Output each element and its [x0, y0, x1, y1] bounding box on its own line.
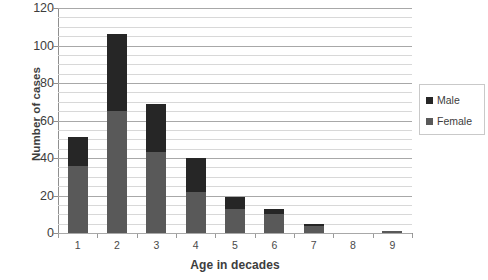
gridline-major	[58, 8, 412, 9]
bar-segment-male[interactable]	[68, 137, 88, 165]
bar-segment-male[interactable]	[146, 104, 166, 153]
bar-stack[interactable]	[186, 158, 206, 233]
bar-segment-male[interactable]	[107, 34, 127, 111]
bar-stack[interactable]	[382, 231, 402, 233]
y-axis-tick-label: 0	[8, 226, 54, 240]
bar-stack[interactable]	[146, 104, 166, 233]
legend-item-female[interactable]: Female	[426, 115, 472, 127]
x-axis-tick-mark	[215, 234, 216, 238]
y-axis-tick-label: 60	[8, 114, 54, 128]
gridline-major	[58, 233, 412, 234]
x-axis-tick-label: 8	[350, 239, 356, 251]
bar-segment-male[interactable]	[186, 158, 206, 192]
y-axis-tick-mark	[53, 46, 58, 47]
bar-segment-female[interactable]	[382, 231, 402, 233]
y-axis-tick-label: 100	[8, 39, 54, 53]
x-axis-tick-mark	[58, 234, 59, 238]
y-axis-tick-labels: 020406080100120	[4, 0, 54, 280]
chart-legend: Male Female	[419, 84, 485, 135]
bar-segment-male[interactable]	[304, 224, 324, 226]
x-axis-tick-label: 9	[389, 239, 395, 251]
y-axis-tick-label: 80	[8, 76, 54, 90]
x-axis-tick-label: 4	[193, 239, 199, 251]
legend-swatch-male	[426, 97, 433, 104]
x-axis-tick-mark	[176, 234, 177, 238]
x-axis-tick-mark	[137, 234, 138, 238]
y-axis-tick-mark	[53, 233, 58, 234]
x-axis-tick-mark	[294, 234, 295, 238]
bar-segment-female[interactable]	[107, 111, 127, 233]
bar-stack[interactable]	[68, 137, 88, 233]
bar-stack[interactable]	[225, 197, 245, 233]
bar-segment-female[interactable]	[186, 192, 206, 233]
x-axis-tick-mark	[255, 234, 256, 238]
x-axis-tick-mark	[333, 234, 334, 238]
bar-segment-female[interactable]	[68, 166, 88, 234]
x-axis-tick-label: 2	[114, 239, 120, 251]
bar-segment-female[interactable]	[225, 209, 245, 233]
x-axis-tick-label: 3	[153, 239, 159, 251]
y-axis-tick-mark	[53, 121, 58, 122]
legend-swatch-female	[426, 118, 433, 125]
x-axis-tick-label: 7	[311, 239, 317, 251]
x-axis-tick-mark	[373, 234, 374, 238]
legend-label-male: Male	[437, 94, 460, 106]
y-axis-tick-label: 20	[8, 189, 54, 203]
bar-stack[interactable]	[107, 34, 127, 233]
gridline-minor	[58, 27, 412, 28]
bar-stack[interactable]	[304, 224, 324, 233]
bar-segment-male[interactable]	[264, 209, 284, 215]
y-axis-tick-mark	[53, 8, 58, 9]
bar-segment-female[interactable]	[264, 214, 284, 233]
bar-segment-male[interactable]	[225, 197, 245, 208]
legend-label-female: Female	[437, 115, 472, 127]
legend-item-male[interactable]: Male	[426, 94, 460, 106]
y-axis-tick-label: 120	[8, 1, 54, 15]
x-axis-tick-mark	[97, 234, 98, 238]
bar-segment-female[interactable]	[304, 226, 324, 234]
y-axis-tick-mark	[53, 83, 58, 84]
x-axis-title: Age in decades	[58, 258, 412, 272]
x-axis-tick-mark	[412, 234, 413, 238]
stacked-bar-chart: Number of cases 020406080100120 12345678…	[0, 0, 488, 280]
gridline-minor	[58, 17, 412, 18]
x-axis-tick-label: 6	[271, 239, 277, 251]
y-axis-tick-mark	[53, 158, 58, 159]
y-axis-tick-mark	[53, 196, 58, 197]
x-axis-tick-label: 1	[75, 239, 81, 251]
x-axis-tick-label: 5	[232, 239, 238, 251]
y-axis-tick-label: 40	[8, 151, 54, 165]
bar-segment-female[interactable]	[146, 152, 166, 233]
plot-area	[58, 8, 412, 233]
bar-stack[interactable]	[264, 209, 284, 233]
